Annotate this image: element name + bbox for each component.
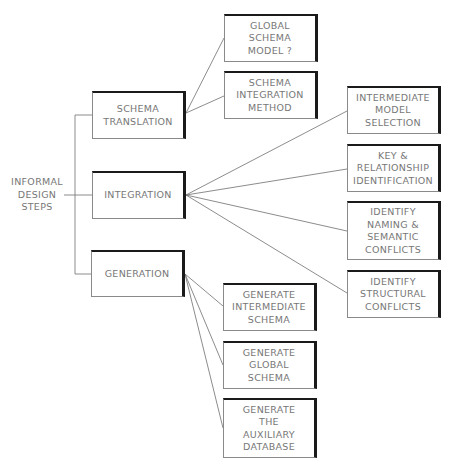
box-label: GENERATE THE AUXILIARY DATABASE: [243, 404, 296, 454]
box-label: KEY & RELATIONSHIP IDENTIFICATION: [353, 150, 433, 188]
connector-int-naming: [186, 195, 347, 231]
box-generate-intermediate-schema: GENERATE INTERMEDIATE SCHEMA: [223, 283, 317, 331]
root-label-informal-design-steps: INFORMAL DESIGN STEPS: [3, 176, 71, 214]
box-identify-naming-semantic-conflicts: IDENTIFY NAMING & SEMANTIC CONFLICTS: [347, 201, 441, 260]
connector-st-global-schema: [186, 38, 224, 113]
box-label: SCHEMA INTEGRATION METHOD: [236, 77, 304, 115]
box-generation: GENERATION: [91, 250, 185, 297]
box-generate-global-schema: GENERATE GLOBAL SCHEMA: [223, 341, 317, 389]
box-label: IDENTIFY NAMING & SEMANTIC CONFLICTS: [365, 206, 421, 256]
box-key-relationship-identification: KEY & RELATIONSHIP IDENTIFICATION: [347, 144, 441, 192]
box-label: GENERATE INTERMEDIATE SCHEMA: [232, 289, 306, 327]
connector-gen-intermediate: [185, 274, 223, 306]
box-global-schema-model: GLOBAL SCHEMA MODEL ?: [224, 14, 318, 62]
box-integration: INTEGRATION: [92, 171, 186, 219]
box-schema-integration-method: SCHEMA INTEGRATION METHOD: [224, 71, 318, 119]
connector-st-integration-method: [186, 96, 224, 113]
box-label: SCHEMA TRANSLATION: [103, 103, 172, 128]
design-steps-tree-diagram: INFORMAL DESIGN STEPS SCHEMA TRANSLATION…: [0, 0, 452, 467]
box-intermediate-model-selection: INTERMEDIATE MODEL SELECTION: [347, 86, 441, 134]
box-identify-structural-conflicts: IDENTIFY STRUCTURAL CONFLICTS: [347, 270, 441, 318]
box-schema-translation: SCHEMA TRANSLATION: [92, 91, 186, 139]
box-label: GENERATION: [105, 268, 170, 281]
box-label: IDENTIFY STRUCTURAL CONFLICTS: [360, 276, 426, 314]
box-generate-auxiliary-database: GENERATE THE AUXILIARY DATABASE: [223, 398, 317, 458]
connector-int-structural: [186, 195, 347, 293]
box-label: GENERATE GLOBAL SCHEMA: [243, 347, 296, 385]
box-label: INTERMEDIATE MODEL SELECTION: [356, 92, 430, 130]
box-label: GLOBAL SCHEMA MODEL ?: [248, 20, 292, 58]
box-label: INTEGRATION: [104, 189, 172, 202]
